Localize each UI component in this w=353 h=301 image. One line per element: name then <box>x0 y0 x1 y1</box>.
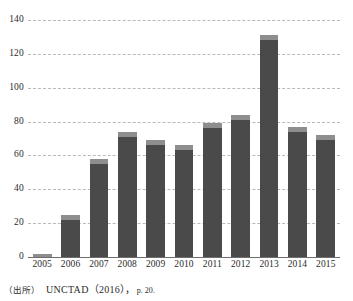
bar-body-2012 <box>231 115 250 257</box>
y-tick-label-100: 100 <box>9 83 24 93</box>
y-tick-label-0: 0 <box>19 252 24 262</box>
x-tick-label-2014: 2014 <box>288 260 307 270</box>
y-tick-label-60: 60 <box>14 151 24 161</box>
y-axis: 020406080100120140 <box>0 20 26 257</box>
x-tick-label-2006: 2006 <box>61 260 80 270</box>
bar-cap-2005 <box>33 254 52 257</box>
x-tick-label-2005: 2005 <box>32 260 51 270</box>
bar-body-2006 <box>61 215 80 257</box>
bar-cap-2010 <box>175 145 194 150</box>
bar-body-2013 <box>260 35 279 257</box>
bar-2014 <box>288 20 307 257</box>
bar-2009 <box>146 20 165 257</box>
bar-2015 <box>316 20 335 257</box>
source-prefix: （出所） <box>4 285 40 295</box>
y-tick-label-80: 80 <box>14 117 24 127</box>
source-page: p. 20. <box>137 286 155 295</box>
y-tick-label-40: 40 <box>14 185 24 195</box>
bar-body-2005 <box>33 254 52 257</box>
bar-2013 <box>260 20 279 257</box>
bar-body-2011 <box>203 123 222 257</box>
bar-2011 <box>203 20 222 257</box>
bar-cap-2015 <box>316 135 335 140</box>
bar-cap-2007 <box>90 159 109 164</box>
x-tick-label-2007: 2007 <box>89 260 108 270</box>
bar-body-2014 <box>288 127 307 257</box>
bar-body-2008 <box>118 132 137 257</box>
x-tick-label-2013: 2013 <box>259 260 278 270</box>
bar-cap-2006 <box>61 215 80 220</box>
y-tick-label-140: 140 <box>9 15 24 25</box>
bar-body-2015 <box>316 135 335 257</box>
bar-2006 <box>61 20 80 257</box>
plot-area <box>28 20 340 257</box>
bar-cap-2014 <box>288 127 307 132</box>
bar-cap-2011 <box>203 123 222 128</box>
bar-2012 <box>231 20 250 257</box>
bar-cap-2013 <box>260 35 279 40</box>
x-tick-label-2011: 2011 <box>203 260 222 270</box>
bar-2010 <box>175 20 194 257</box>
x-axis: 2005200620072008200920102011201220132014… <box>28 260 340 276</box>
bar-cap-2008 <box>118 132 137 137</box>
bar-body-2010 <box>175 145 194 257</box>
bar-chart-figure: 020406080100120140 200520062007200820092… <box>0 0 353 301</box>
y-tick-label-20: 20 <box>14 218 24 228</box>
source-note: （出所）UNCTAD（2016），p. 20. <box>4 283 155 297</box>
bars-layer <box>28 20 340 257</box>
x-tick-label-2012: 2012 <box>231 260 250 270</box>
bar-body-2009 <box>146 140 165 257</box>
bar-cap-2012 <box>231 115 250 120</box>
y-tick-label-120: 120 <box>9 49 24 59</box>
x-tick-label-2010: 2010 <box>174 260 193 270</box>
x-tick-label-2008: 2008 <box>118 260 137 270</box>
bar-2008 <box>118 20 137 257</box>
x-tick-label-2015: 2015 <box>316 260 335 270</box>
x-tick-label-2009: 2009 <box>146 260 165 270</box>
gridline-0 <box>28 257 340 258</box>
bar-body-2007 <box>90 159 109 257</box>
bar-2005 <box>33 20 52 257</box>
bar-2007 <box>90 20 109 257</box>
source-body: UNCTAD（2016）， <box>46 284 136 295</box>
bar-cap-2009 <box>146 140 165 145</box>
